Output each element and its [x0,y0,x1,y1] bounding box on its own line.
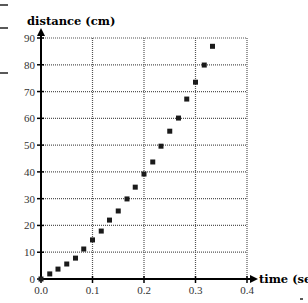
grid-lines [41,38,247,279]
x-tick-label: 0.1 [86,284,100,296]
y-tick-label: 80 [24,59,36,71]
x-tick-label: 0.4 [240,284,254,296]
edge-marks [0,5,303,299]
data-point [158,144,163,149]
data-point [81,247,86,252]
y-tick-label: 60 [24,112,36,124]
y-tick-label: 10 [24,246,36,258]
x-axis-title: time (sec) [259,272,308,286]
data-point [142,172,147,177]
data-point [202,63,207,68]
data-point [64,262,69,267]
tick-labels: 01020304050607080900.00.10.20.30.4 [24,32,254,296]
data-point [133,185,138,190]
data-point [210,44,215,49]
y-axis-title: distance (cm) [27,14,115,28]
data-point [39,277,44,282]
x-tick-label: 0.0 [34,284,48,296]
y-axis-arrow-icon [37,28,45,36]
data-point [193,80,198,85]
data-point [99,229,104,234]
x-tick-label: 0.3 [189,284,203,296]
y-tick-label: 50 [24,139,36,151]
y-tick-label: 70 [24,86,36,98]
data-point [55,267,60,272]
data-point [125,196,130,201]
distance-time-chart: 01020304050607080900.00.10.20.30.4 dista… [0,0,308,303]
data-point [150,159,155,164]
y-tick-label: 30 [24,193,36,205]
axes [37,28,258,283]
data-point [73,256,78,261]
x-tick-label: 0.2 [137,284,151,296]
data-point [176,116,181,121]
data-points [39,44,215,282]
data-point [167,129,172,134]
data-point [107,218,112,223]
y-tick-label: 20 [24,219,36,231]
x-axis-arrow-icon [250,275,258,283]
data-point [90,237,95,242]
data-point [184,97,189,102]
y-tick-label: 40 [24,166,36,178]
y-tick-label: 90 [24,32,36,44]
data-point [47,271,52,276]
data-point [116,208,121,213]
